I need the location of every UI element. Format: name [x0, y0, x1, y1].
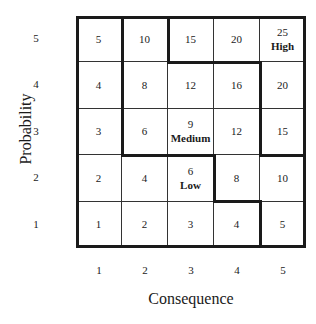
matrix-cell: 4: [122, 155, 168, 201]
x-tick: 4: [214, 264, 260, 276]
zone-label: Low: [180, 178, 201, 192]
cell-value: 6: [188, 164, 194, 178]
y-tick: 2: [30, 171, 42, 183]
x-tick: 3: [168, 264, 214, 276]
cell-value: 1: [96, 217, 102, 231]
high-zone-boundary: [167, 16, 170, 63]
matrix-cell: 5: [260, 202, 306, 248]
low-zone-boundary: [213, 154, 216, 202]
cell-value: 8: [234, 171, 240, 185]
low-zone-boundary: [259, 200, 262, 248]
matrix-cell: 10: [122, 16, 168, 62]
matrix-cell: 1: [76, 202, 122, 248]
x-tick: 2: [122, 264, 168, 276]
matrix-cell: 2: [122, 202, 168, 248]
matrix-cell: 6: [122, 109, 168, 155]
zone-label: High: [271, 39, 294, 53]
matrix-grid: 510152025High48121620369Medium1215246Low…: [76, 16, 306, 248]
low-zone-boundary: [121, 154, 215, 157]
matrix-cell: 8: [122, 62, 168, 108]
matrix-cell: 20: [214, 16, 260, 62]
cell-value: 4: [234, 217, 240, 231]
cell-value: 12: [231, 124, 242, 138]
cell-value: 25: [277, 25, 288, 39]
cell-value: 2: [142, 217, 148, 231]
matrix-cell: 4: [76, 62, 122, 108]
matrix-cell: 16: [214, 62, 260, 108]
matrix-cell: 3: [168, 202, 214, 248]
y-tick: 5: [30, 32, 42, 44]
matrix-cell: 6Low: [168, 155, 214, 201]
cell-value: 2: [96, 171, 102, 185]
cell-value: 5: [96, 32, 102, 46]
matrix-cell: 9Medium: [168, 109, 214, 155]
cell-value: 20: [231, 32, 242, 46]
matrix-cell: 4: [214, 202, 260, 248]
cell-value: 16: [231, 78, 242, 92]
cell-value: 3: [188, 217, 194, 231]
high-zone-boundary: [167, 61, 261, 64]
matrix-cell: 2: [76, 155, 122, 201]
cell-value: 10: [277, 171, 288, 185]
x-axis-label: Consequence: [76, 290, 306, 308]
matrix-cell: 8: [214, 155, 260, 201]
cell-value: 4: [142, 171, 148, 185]
cell-value: 6: [142, 124, 148, 138]
matrix-cell: 12: [168, 62, 214, 108]
cell-value: 4: [96, 78, 102, 92]
y-tick: 1: [30, 218, 42, 230]
low-zone-boundary: [213, 200, 261, 203]
cell-value: 9: [188, 117, 194, 131]
high-zone-boundary: [259, 61, 262, 156]
cell-value: 20: [277, 78, 288, 92]
cell-value: 5: [280, 217, 286, 231]
matrix-cell: 5: [76, 16, 122, 62]
zone-label: Medium: [171, 131, 211, 145]
matrix-cell: 15: [260, 109, 306, 155]
matrix-cell: 20: [260, 62, 306, 108]
cell-value: 15: [185, 32, 196, 46]
cell-value: 3: [96, 124, 102, 138]
cell-value: 8: [142, 78, 148, 92]
matrix-cell: 12: [214, 109, 260, 155]
x-tick: 1: [76, 264, 122, 276]
cell-value: 10: [139, 32, 150, 46]
high-zone-boundary: [259, 154, 306, 157]
matrix-cell: 3: [76, 109, 122, 155]
cell-value: 12: [185, 78, 196, 92]
y-tick: 4: [30, 78, 42, 90]
y-tick: 3: [30, 125, 42, 137]
cell-value: 15: [277, 124, 288, 138]
low-zone-boundary: [121, 16, 124, 156]
matrix-cell: 15: [168, 16, 214, 62]
x-tick: 5: [260, 264, 306, 276]
matrix-cell: 25High: [260, 16, 306, 62]
matrix-cell: 10: [260, 155, 306, 201]
